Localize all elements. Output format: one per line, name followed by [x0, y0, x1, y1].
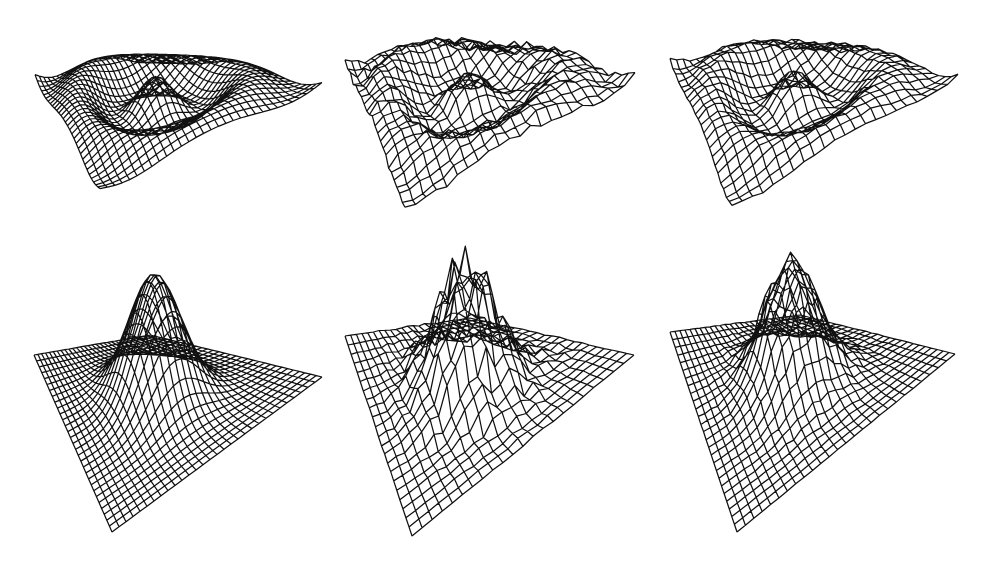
mesh-lines: [670, 252, 955, 532]
surface-plot-r1-c2: [0, 0, 987, 562]
wireframe-mesh: [0, 0, 987, 562]
